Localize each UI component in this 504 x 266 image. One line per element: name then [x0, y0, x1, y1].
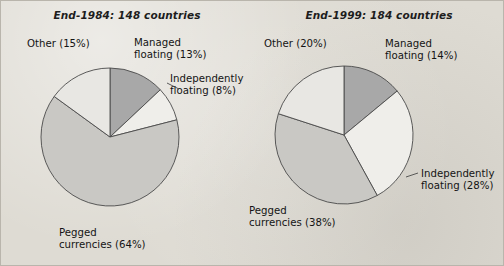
label-pegged-1999-line1: Pegged [249, 205, 287, 216]
label-indep-1984-line2: floating (8%) [170, 85, 236, 96]
label-independently-floating-1984: Independently floating (8%) [170, 73, 243, 96]
pie-svg-end-1984 [40, 67, 180, 207]
label-pegged-1984-line2: currencies (64%) [59, 239, 146, 250]
label-independently-floating-1999: Independently floating (28%) [421, 168, 494, 191]
label-other-1999-text: Other (20%) [264, 38, 327, 49]
label-pegged-currencies-1984: Pegged currencies (64%) [59, 227, 146, 250]
label-indep-1984-line1: Independently [170, 73, 243, 84]
pie-chart-figure: End-1984: 148 countries Other (15%) Mana… [0, 0, 504, 266]
label-other-1984: Other (15%) [27, 38, 90, 50]
chart-title-end-1999: End-1999: 184 countries [253, 9, 504, 21]
label-managed-1999-line1: Managed [385, 38, 432, 49]
label-pegged-1999-line2: currencies (38%) [249, 217, 336, 228]
label-managed-1984-line2: floating (13%) [134, 49, 206, 60]
label-indep-1999-line2: floating (28%) [421, 180, 493, 191]
pie-chart-end-1984 [40, 67, 180, 207]
label-pegged-currencies-1999: Pegged currencies (38%) [249, 205, 336, 228]
label-other-1999: Other (20%) [264, 38, 327, 50]
label-indep-1999-line1: Independently [421, 168, 494, 179]
label-managed-1984-line1: Managed [134, 37, 181, 48]
label-managed-1999-line2: floating (14%) [385, 50, 457, 61]
chart-panel-end-1984: End-1984: 148 countries Other (15%) Mana… [1, 1, 253, 266]
label-other-1984-text: Other (15%) [27, 38, 90, 49]
label-managed-floating-1999: Managed floating (14%) [385, 38, 457, 61]
pie-chart-end-1999 [274, 65, 414, 205]
chart-title-end-1984: End-1984: 148 countries [1, 9, 253, 21]
label-managed-floating-1984: Managed floating (13%) [134, 37, 206, 60]
pie-svg-end-1999 [274, 65, 414, 205]
label-pegged-1984-line1: Pegged [59, 227, 97, 238]
